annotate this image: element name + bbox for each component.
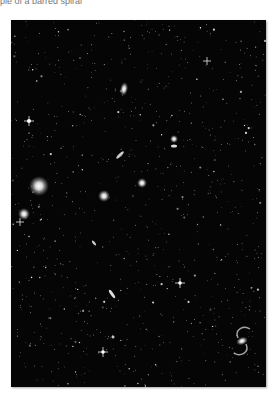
bright-elliptical-galaxy — [29, 176, 49, 196]
star-field — [11, 20, 266, 387]
barred-spiral-galaxy — [234, 327, 250, 354]
elliptical-galaxy-upper — [119, 81, 129, 96]
galaxy-field-photo — [11, 20, 266, 387]
caption-text: ple of a barred spiral — [0, 0, 82, 6]
